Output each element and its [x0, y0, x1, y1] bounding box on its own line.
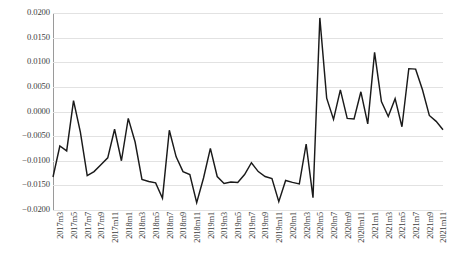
y-axis-tick-label: −0.0100 — [2, 156, 50, 165]
x-axis-tick-label: 2020m3 — [303, 212, 312, 239]
x-axis-tick-label: 2019m5 — [234, 212, 243, 239]
x-axis-tick-label: 2020m1 — [289, 212, 298, 239]
x-axis-tick-label: 2021m1 — [371, 212, 380, 239]
x-axis-tick-label: 2019m7 — [248, 212, 257, 239]
line-chart: 0.02000.01500.01000.00500.0000−0.0050−0.… — [0, 0, 451, 274]
y-axis-tick-label: 0.0100 — [2, 57, 50, 66]
x-axis-tick-label: 2019m1 — [207, 212, 216, 239]
x-axis-tick-label: 2018m3 — [138, 212, 147, 239]
y-axis-tick-label: 0.0150 — [2, 33, 50, 42]
x-axis-tick-label: 2020m11 — [357, 212, 366, 243]
x-axis-tick-label: 2019m3 — [220, 212, 229, 239]
y-axis-tick-label: 0.0000 — [2, 107, 50, 116]
x-axis-tick-labels: 2017m32017m52017m72017m92017m112018m1201… — [53, 212, 451, 274]
x-axis-tick-label: 2018m9 — [179, 212, 188, 239]
x-axis-tick-label: 2021m9 — [426, 212, 435, 239]
x-axis-tick-label: 2020m5 — [316, 212, 325, 239]
series-line — [53, 18, 443, 203]
plot-area — [53, 13, 443, 210]
gridline — [53, 210, 443, 211]
y-axis-tick-label: 0.0050 — [2, 82, 50, 91]
x-axis-tick-label: 2018m1 — [125, 212, 134, 239]
x-axis-tick-label: 2017m11 — [111, 212, 120, 243]
x-axis-tick-label: 2018m11 — [193, 212, 202, 243]
y-axis-tick-label: −0.0050 — [2, 131, 50, 140]
x-axis-tick-label: 2020m9 — [344, 212, 353, 239]
x-axis-tick-label: 2021m11 — [439, 212, 448, 243]
x-axis-tick-label: 2018m5 — [152, 212, 161, 239]
series-svg — [53, 13, 443, 210]
x-axis-tick-label: 2018m7 — [166, 212, 175, 239]
y-axis-tick-label: −0.0150 — [2, 180, 50, 189]
x-axis-tick-label: 2021m5 — [398, 212, 407, 239]
x-axis-tick-label: 2017m7 — [84, 212, 93, 239]
x-axis-tick-label: 2020m7 — [330, 212, 339, 239]
x-axis-tick-label: 2019m11 — [275, 212, 284, 243]
x-axis-tick-label: 2017m3 — [56, 212, 65, 239]
y-axis-tick-label: 0.0200 — [2, 8, 50, 17]
y-axis-tick-label: −0.0200 — [2, 205, 50, 214]
y-axis-tick-labels: 0.02000.01500.01000.00500.0000−0.0050−0.… — [0, 0, 50, 274]
x-axis-tick-label: 2017m9 — [97, 212, 106, 239]
x-axis-tick-label: 2021m3 — [385, 212, 394, 239]
x-axis-tick-label: 2019m9 — [261, 212, 270, 239]
x-axis-tick-label: 2017m5 — [70, 212, 79, 239]
x-axis-tick-label: 2021m7 — [412, 212, 421, 239]
